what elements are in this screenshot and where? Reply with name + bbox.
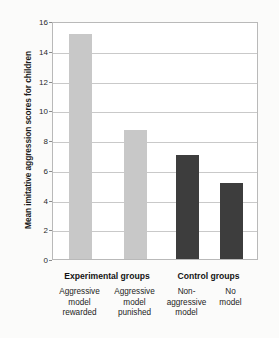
bar [69, 34, 92, 259]
x-axis-tick-label: Aggressivemodelrewarded [54, 287, 106, 319]
y-axis-tick-label: 0 [26, 256, 48, 265]
y-axis-tick-label: 14 [26, 47, 48, 56]
y-axis-tick-label: 2 [26, 226, 48, 235]
y-axis-tick-mark [49, 260, 52, 261]
x-axis-tick-label-line: Aggressive [59, 287, 100, 296]
plot-area [52, 22, 258, 260]
x-axis-tick-label-line: rewarded [62, 308, 96, 317]
y-axis-tick-label: 4 [26, 196, 48, 205]
x-axis-tick-label: Nomodel [205, 287, 257, 308]
x-axis-tick-label-line: punished [118, 308, 151, 317]
y-axis-tick-label: 12 [26, 77, 48, 86]
x-axis-tick-label-row: AggressivemodelrewardedAggressivemodelpu… [52, 287, 258, 333]
x-axis-tick-label-line: No [225, 287, 235, 296]
y-axis-tick-label: 10 [26, 107, 48, 116]
group-header-row: Experimental groupsControl groups [52, 270, 258, 283]
x-axis-tick-label-line: Aggressive [114, 287, 155, 296]
x-axis-tick-label: Aggressivemodelpunished [109, 287, 161, 319]
y-axis-tick-group: 1614121086420 [22, 22, 48, 260]
x-axis-tick-label-line: model [123, 298, 145, 307]
bar [176, 155, 199, 259]
x-axis-tick-label-line: model [219, 298, 241, 307]
group-header-label: Experimental groups [52, 270, 162, 282]
y-axis-tick-label: 6 [26, 166, 48, 175]
bar [124, 130, 147, 259]
x-axis-tick-label-line: model [68, 298, 90, 307]
x-axis-tick-label-line: Non- [178, 287, 196, 296]
x-axis-tick-label-line: aggressive [167, 298, 207, 307]
bar-chart-figure: Mean imitative aggression scores for chi… [0, 0, 279, 338]
bar [220, 183, 243, 259]
x-axis-tick-label-line: model [175, 308, 197, 317]
group-header-label: Control groups [154, 270, 264, 282]
y-axis-tick-label: 16 [26, 18, 48, 27]
y-axis-tick-label: 8 [26, 137, 48, 146]
